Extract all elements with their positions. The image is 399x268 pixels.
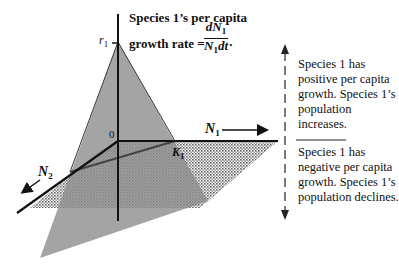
title-line1: Species 1’s per capita (129, 10, 247, 25)
denominator-text: N (204, 38, 213, 53)
k1-sub: 1 (180, 151, 185, 161)
title-growth-rate-text: growth rate = (129, 36, 205, 51)
down-arrowhead-icon (281, 210, 289, 220)
numerator-text: dN (206, 19, 222, 34)
n2-sub: 2 (48, 171, 53, 181)
numerator-sub: 1 (222, 26, 227, 36)
n2-arrow (23, 180, 40, 192)
denominator-suffix: dt (218, 38, 228, 53)
negative-growth-text: Species 1 has negative per capita growth… (298, 145, 399, 205)
k1-label: K1 (172, 145, 185, 161)
up-arrowhead-icon (281, 44, 289, 54)
k1-text: K (172, 145, 180, 159)
r1-sub: 1 (104, 39, 109, 49)
fraction-denominator: N1dt (204, 39, 228, 57)
fraction-numerator: dN1 (204, 20, 228, 39)
origin-label: 0 (109, 128, 115, 140)
fraction-period: . (230, 34, 233, 49)
n2-label: N2 (38, 164, 53, 181)
growth-rate-fraction: dN1 N1dt . (204, 20, 228, 57)
n2-text: N (38, 164, 48, 179)
n1-text: N (205, 121, 215, 136)
title-line2: growth rate = dN1 N1dt . (129, 36, 205, 51)
positive-growth-text: Species 1 has positive per capita growth… (298, 57, 399, 132)
n1-sub: 1 (215, 128, 220, 138)
growth-rate-title: Species 1’s per capita growth rate = dN1… (129, 10, 247, 25)
n1-label: N1 (205, 121, 220, 138)
r1-label: r1 (99, 33, 108, 49)
